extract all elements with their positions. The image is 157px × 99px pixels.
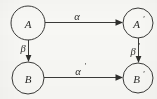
edge-beta-prime-label-mark: ' xyxy=(138,42,140,51)
edge-alpha-prime-label-mark: ' xyxy=(84,62,86,71)
edge-alpha-prime-label-group: α ' xyxy=(75,62,86,77)
edge-alpha-label: α xyxy=(74,11,80,22)
node-bottom-right-prime: ' xyxy=(143,70,145,79)
edge-beta-prime-label: β xyxy=(129,46,136,57)
node-bottom-left-label: B xyxy=(25,73,32,85)
node-top-right: A ' xyxy=(123,8,153,38)
node-bottom-right-label: B xyxy=(133,73,140,85)
node-bottom-right: B ' xyxy=(123,63,153,93)
commutative-diagram: A A ' B B ' α α ' β β ' xyxy=(0,0,157,99)
node-top-left: A xyxy=(11,6,45,40)
node-top-right-prime: ' xyxy=(143,15,145,24)
edge-alpha-arrowhead-icon xyxy=(116,19,124,26)
node-bottom-left: B xyxy=(12,62,44,94)
edge-beta-prime-arrowhead-icon xyxy=(136,56,142,63)
diagram-canvas: A A ' B B ' α α ' β β ' xyxy=(0,0,157,99)
edge-alpha-label-group: α xyxy=(74,11,80,22)
node-top-right-label: A xyxy=(132,18,140,30)
edge-alpha-prime-arrowhead-icon xyxy=(116,74,124,81)
node-top-left-label: A xyxy=(24,18,32,30)
edge-beta-arrowhead-icon xyxy=(26,55,32,62)
edge-alpha-prime xyxy=(44,74,123,81)
edge-beta-label-group: β xyxy=(19,43,26,54)
edge-alpha-prime-label: α xyxy=(75,66,81,77)
edge-alpha xyxy=(45,19,123,26)
edge-beta xyxy=(26,40,32,62)
edge-beta-label: β xyxy=(19,43,26,54)
